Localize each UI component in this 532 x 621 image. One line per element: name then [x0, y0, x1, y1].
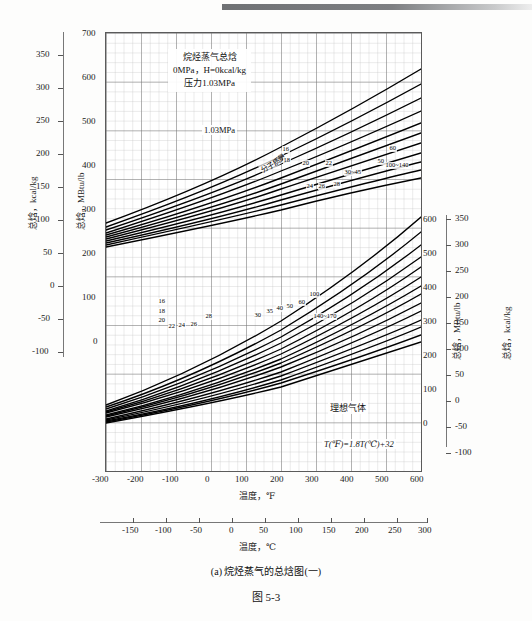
- x-c-tick--100: -100: [155, 526, 172, 535]
- x-c-tickmark-200: [364, 518, 365, 523]
- y-left-outer-tick-0: 0: [50, 281, 55, 290]
- x-f-tick--100: -100: [162, 475, 179, 484]
- y-left-inner-tick-500: 500: [82, 117, 96, 126]
- y-right-outer-tick-100: 100: [455, 344, 469, 353]
- x-c-tick-50: 50: [259, 526, 268, 535]
- y-left-outer-tick--50: -50: [38, 314, 50, 323]
- x-f-tick-200: 200: [270, 475, 284, 484]
- curve-label-upper-30-45: 30~45: [344, 169, 362, 176]
- x-f-tick-500: 500: [375, 475, 389, 484]
- enthalpy-curves: [106, 33, 421, 471]
- y-right-inner-tick-400: 400: [423, 283, 437, 292]
- curve-label-upper-60: 60: [389, 145, 397, 152]
- y-left-outer-tickmark-200: [58, 154, 63, 155]
- y-left-outer-tickmark--100: [58, 352, 63, 353]
- y-left-inner-tick-400: 400: [82, 161, 96, 170]
- x-c-tickmark--50: [199, 518, 200, 523]
- y-left-outer-tick-50: 50: [43, 248, 52, 257]
- curve-label-lower-28: 28: [205, 313, 213, 320]
- figure-caption-a: (a) 烷烃蒸气的总焓图(一): [0, 563, 532, 578]
- x-f-tick-0: 0: [205, 475, 210, 484]
- y-left-outer-tickmark-300: [58, 88, 63, 89]
- y-left-outer-tick-250: 250: [36, 116, 50, 125]
- y-axis-left-outer-title: 总焓，kcal/kg: [26, 177, 39, 231]
- y-left-outer-tick-300: 300: [36, 83, 50, 92]
- curve-label-lower-40: 40: [276, 305, 284, 312]
- x-c-tick-100: 100: [289, 526, 303, 535]
- y-right-inner-tick-200: 200: [423, 351, 437, 360]
- x-c-tick-0: 0: [229, 526, 234, 535]
- y-left-outer-tickmark--50: [58, 319, 63, 320]
- curve-label-upper-20: 20: [302, 160, 310, 167]
- curve-label-lower-30: 30: [254, 312, 262, 319]
- x-c-tick-150: 150: [322, 526, 336, 535]
- y-right-inner-tick-600: 600: [423, 215, 437, 224]
- y-left-outer-tick-200: 200: [36, 149, 50, 158]
- y-left-outer-tickmark-50: [58, 253, 63, 254]
- y-right-outer-tickmark-100: [446, 349, 451, 350]
- x-f-tick-300: 300: [305, 475, 319, 484]
- y-right-outer-tick-200: 200: [455, 292, 469, 301]
- y-right-outer-tick-250: 250: [455, 266, 469, 275]
- x-f-tick-400: 400: [340, 475, 354, 484]
- curve-label-lower-100: 100: [309, 291, 320, 298]
- y-left-outer-tickmark-350: [58, 55, 63, 56]
- page-background: 烷烃蒸气总焓 0MPa，H=0kcal/kg 压力1.03MPa 1.03MPa…: [0, 0, 532, 621]
- curve-label-lower-20: 20: [158, 317, 166, 324]
- x-axis-celsius-title: 温度，℃: [239, 540, 276, 553]
- figure-5-3: 烷烃蒸气总焓 0MPa，H=0kcal/kg 压力1.03MPa 1.03MPa…: [0, 0, 532, 621]
- x-c-tickmark-150: [331, 518, 332, 523]
- y-left-outer-tickmark-250: [58, 121, 63, 122]
- y-right-inner-tick-0: 0: [423, 419, 428, 428]
- y-right-inner-tick-300: 300: [423, 317, 437, 326]
- curve-label-lower-50: 50: [286, 303, 294, 310]
- x-c-tick-250: 250: [388, 526, 402, 535]
- curve-label-upper-16: 16: [282, 146, 290, 153]
- curve-label-upper-26: 26: [318, 183, 326, 190]
- pressure-annotation: 1.03MPa: [202, 125, 237, 135]
- y-left-outer-tickmark-100: [58, 220, 63, 221]
- x-f-tick--200: -200: [127, 475, 144, 484]
- x-axis-fahrenheit-title: 温度，℉: [239, 489, 275, 502]
- curve-label-lower-35: 35: [266, 308, 274, 315]
- curve-label-upper-24: 24: [306, 183, 314, 190]
- curve-label-lower-60: 60: [298, 299, 306, 306]
- y-right-outer-axis-line: [446, 215, 447, 447]
- title-line-1: 烷烃蒸气总焓: [173, 51, 246, 64]
- y-axis-left-inner-title: 总焓，MBtu/lb: [74, 172, 87, 230]
- curve-label-upper-22: 22: [325, 160, 333, 167]
- title-line-2: 0MPa，H=0kcal/kg: [173, 64, 246, 77]
- y-right-outer-tickmark-250: [446, 271, 451, 272]
- y-left-inner-tick-200: 200: [82, 249, 96, 258]
- x-c-tickmark-50: [265, 518, 266, 523]
- title-line-3: 压力1.03MPa: [173, 77, 246, 90]
- y-left-inner-tick-0: 0: [93, 337, 98, 346]
- curve-label-lower-140-170: 140~170: [313, 313, 337, 320]
- x-c-tick-200: 200: [355, 526, 369, 535]
- y-right-outer-tick--100: -100: [455, 448, 472, 457]
- curve-label-lower-24: 24: [178, 322, 186, 329]
- y-right-inner-tick-100: 100: [423, 385, 437, 394]
- y-right-outer-tick-150: 150: [455, 318, 469, 327]
- x-c-tickmark-300: [427, 518, 428, 523]
- ideal-gas-annotation: 理想气体: [328, 401, 368, 414]
- y-right-outer-tick--50: -50: [455, 422, 467, 431]
- chart-title-block: 烷烃蒸气总焓 0MPa，H=0kcal/kg 压力1.03MPa: [168, 49, 251, 92]
- x-c-tick-300: 300: [418, 526, 432, 535]
- curve-label-lower-18: 18: [158, 308, 166, 315]
- x-c-tickmark--150: [133, 518, 134, 523]
- y-left-inner-tick-700: 700: [82, 29, 96, 38]
- figure-number: 图 5-3: [0, 588, 532, 604]
- y-right-outer-tickmark--50: [446, 427, 451, 428]
- curve-label-upper-100-140: 100~140: [385, 162, 409, 169]
- x-f-tick--300: -300: [92, 475, 109, 484]
- y-left-outer-tick--100: -100: [32, 347, 49, 356]
- y-right-outer-tick-50: 50: [455, 370, 464, 379]
- x-c-tickmark--100: [166, 518, 167, 523]
- y-right-inner-tick-500: 500: [423, 249, 437, 258]
- y-left-outer-tickmark-150: [58, 187, 63, 188]
- y-left-outer-tick-350: 350: [36, 50, 50, 59]
- y-right-outer-tickmark--100: [446, 453, 451, 454]
- y-left-inner-tick-600: 600: [82, 73, 96, 82]
- y-right-outer-tick-350: 350: [455, 214, 469, 223]
